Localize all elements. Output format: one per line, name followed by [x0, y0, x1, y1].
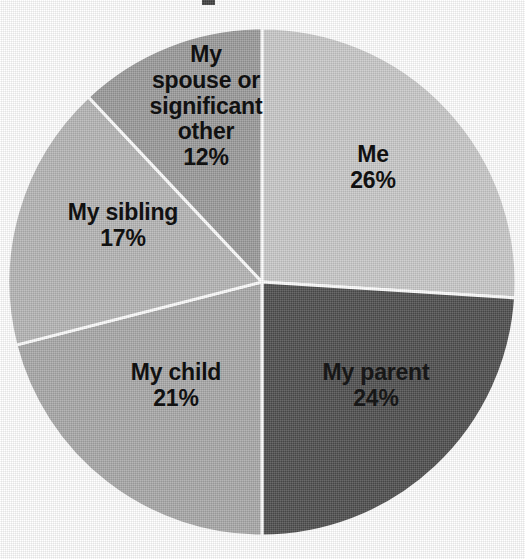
- slice-label-my-sibling-value: 17%: [50, 226, 196, 252]
- slice-label-me: Me 26%: [318, 142, 428, 194]
- slice-label-my-spouse-line2: spouse or: [143, 68, 269, 94]
- slice-label-my-spouse-line4: other: [143, 119, 269, 145]
- slice-label-me-text: Me: [318, 142, 428, 168]
- slice-label-my-spouse-value: 12%: [143, 145, 269, 171]
- slice-label-my-child-value: 21%: [103, 386, 249, 412]
- slice-label-my-parent-text: My parent: [300, 360, 452, 386]
- slice-label-my-child-text: My child: [103, 360, 249, 386]
- slice-label-my-spouse-line1: My: [143, 42, 269, 68]
- slice-label-my-spouse: My spouse or significant other 12%: [143, 42, 269, 171]
- slice-label-my-parent: My parent 24%: [300, 360, 452, 412]
- slice-label-my-sibling: My sibling 17%: [50, 200, 196, 252]
- slice-label-my-parent-value: 24%: [300, 386, 452, 412]
- slice-label-my-spouse-line3: significant: [143, 94, 269, 120]
- slice-label-my-child: My child 21%: [103, 360, 249, 412]
- slice-label-my-sibling-text: My sibling: [50, 200, 196, 226]
- slice-label-me-value: 26%: [318, 168, 428, 194]
- pie-chart-figure: Me 26% My parent 24% My child 21% My sib…: [0, 0, 525, 559]
